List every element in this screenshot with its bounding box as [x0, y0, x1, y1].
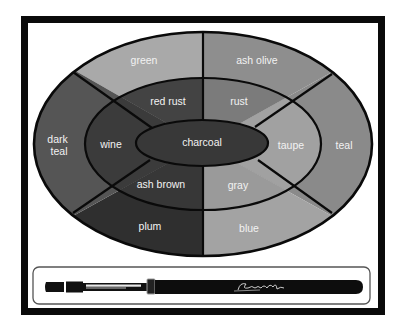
label-dark-teal-line2: teal [51, 145, 68, 157]
label-red-rust: red rust [150, 95, 186, 107]
label-blue: blue [239, 222, 259, 234]
label-teal: teal [336, 139, 353, 151]
label-ash-brown: ash brown [137, 178, 186, 190]
label-charcoal: charcoal [182, 136, 222, 148]
label-plum: plum [139, 220, 162, 232]
label-dark-teal: dark teal [47, 133, 70, 157]
label-dark-teal-line1: dark [47, 133, 68, 145]
label-taupe: taupe [278, 139, 304, 151]
label-wine: wine [99, 138, 122, 150]
brush-panel [33, 267, 370, 304]
label-gray: gray [228, 179, 249, 191]
label-rust: rust [230, 95, 248, 107]
palette-diagram: green ash olive teal blue plum dark teal… [0, 0, 403, 334]
label-green: green [131, 54, 158, 66]
label-ash-olive: ash olive [236, 54, 278, 66]
